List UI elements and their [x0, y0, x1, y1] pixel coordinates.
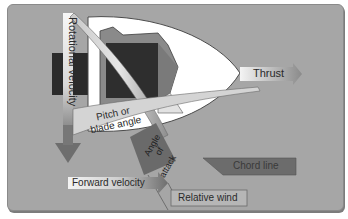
relative-wind-label: Relative wind [178, 193, 237, 203]
forward-velocity-label: Forward velocity [72, 178, 145, 188]
propeller-illustration [8, 5, 343, 210]
thrust-label: Thrust [253, 68, 284, 79]
rotational-velocity-label: Rotational velocity [67, 17, 78, 106]
diagram-panel: Rotational velocity Thrust Pitch or blad… [7, 4, 344, 211]
chord-line-label: Chord line [233, 161, 279, 171]
